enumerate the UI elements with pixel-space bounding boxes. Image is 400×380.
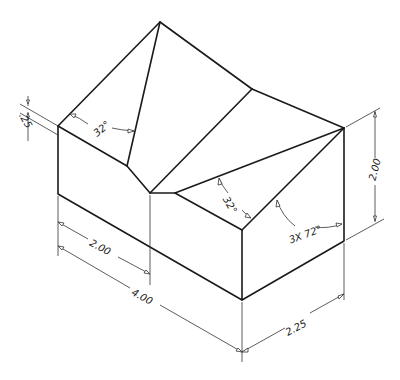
dimension-left-angle: 32° [70,114,134,139]
dim-length: 4.00 [130,286,155,306]
dimension-height: 2.00 [346,108,384,240]
dimension-half-length: 2.00 [58,195,150,285]
dim-repeat-angle: 3X 72° [287,223,323,245]
dim-height: 2.00 [367,157,383,181]
dimension-chamfer-depth: .25 [17,96,58,141]
object-outline [58,22,344,300]
dim-half-length: 2.00 [88,237,113,257]
dim-right-angle: 32° [221,195,239,216]
dim-left-angle: 32° [91,119,112,139]
dimension-repeat-angle: 3X 72° [276,200,342,245]
dimension-right-angle: 32° [218,178,251,218]
dimension-width: 2.25 [242,243,344,352]
dim-chamfer-depth: .25 [17,111,34,130]
dim-width: 2.25 [284,318,309,338]
isometric-drawing: .25 32° 32° 3X 72° 2.00 [0,0,400,380]
